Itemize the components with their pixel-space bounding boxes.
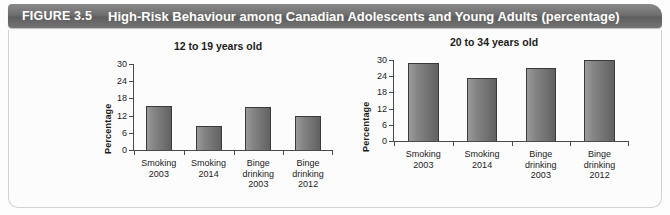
y-tick: 18 [104,93,134,103]
x-tick-label: Binge drinking 2003 [512,141,571,181]
y-tick: 30 [104,59,134,69]
chart-12-to-19: 12 to 19 years old Percentage 0 6 12 18 … [93,36,343,204]
bar-slot [134,64,184,150]
bar-slot [283,64,333,150]
x-tick-line: Binge [283,158,333,169]
bar-binge-drinking-2003 [245,107,271,150]
y-tick: 0 [364,136,394,146]
x-tick-line: drinking [512,160,571,171]
x-tick-line: Smoking [394,149,453,160]
x-tick-line: Smoking [184,158,234,169]
chart-20-to-34: 20 to 34 years old Percentage 0 6 12 18 … [349,36,639,204]
x-tick-line: drinking [570,160,629,171]
x-tick-line: 2003 [134,169,184,180]
y-tick: 24 [364,71,394,81]
y-tick: 0 [104,145,134,155]
x-tick-label: Binge drinking 2012 [283,150,333,190]
bar-smoking-2003 [146,106,172,150]
y-tick: 18 [364,87,394,97]
x-tick-line: 2012 [570,170,629,181]
chart-title-right: 20 to 34 years old [349,36,639,48]
figure-header-banner: FIGURE 3.5 High-Risk Behaviour among Can… [8,4,662,28]
bar-group-left [134,64,333,150]
x-tick-line: Binge [234,158,284,169]
x-tick-line: Binge [512,149,571,160]
figure-container: FIGURE 3.5 High-Risk Behaviour among Can… [0,0,670,215]
plot-area-left: 0 6 12 18 24 30 [133,64,333,151]
x-tick-label: Smoking 2003 [394,141,453,181]
y-tick: 12 [104,111,134,121]
plot-area-right: 0 6 12 18 24 30 [393,60,629,142]
x-tick-line: 2012 [283,179,333,190]
x-tick-label: Smoking 2014 [184,150,234,190]
bar-binge-drinking-2012 [295,116,321,150]
bar-slot [234,64,284,150]
x-tick-line: drinking [234,169,284,180]
figure-number-label: FIGURE 3.5 [8,9,92,23]
figure-body-panel: 12 to 19 years old Percentage 0 6 12 18 … [8,30,662,208]
bar-slot [453,60,512,141]
x-tick-line: 2003 [512,170,571,181]
bar-smoking-2003 [408,63,439,141]
bar-smoking-2014 [196,126,222,150]
x-axis-labels-right: Smoking 2003 Smoking 2014 Binge drinking… [394,141,629,181]
x-tick-label: Smoking 2014 [453,141,512,181]
x-tick-label: Smoking 2003 [134,150,184,190]
y-tick: 6 [364,120,394,130]
x-tick-line: Smoking [453,149,512,160]
y-tick: 30 [364,55,394,65]
bar-binge-drinking-2012 [584,60,615,141]
bar-group-right [394,60,629,141]
x-tick-line: Binge [570,149,629,160]
x-tick-label: Binge drinking 2012 [570,141,629,181]
y-tick: 24 [104,76,134,86]
y-tick: 6 [104,128,134,138]
x-tick-label: Binge drinking 2003 [234,150,284,190]
bar-slot [184,64,234,150]
bar-slot [394,60,453,141]
x-tick-line: 2003 [234,179,284,190]
x-tick-line: Smoking [134,158,184,169]
bar-slot [570,60,629,141]
x-axis-labels-left: Smoking 2003 Smoking 2014 Binge drinking… [134,150,333,190]
figure-title-label: High-Risk Behaviour among Canadian Adole… [92,9,619,24]
x-tick-line: 2003 [394,160,453,171]
bar-binge-drinking-2003 [526,68,557,141]
bar-slot [512,60,571,141]
x-tick-line: drinking [283,169,333,180]
bar-smoking-2014 [467,78,498,141]
chart-title-left: 12 to 19 years old [93,40,343,52]
x-tick-line: 2014 [184,169,234,180]
x-tick-line: 2014 [453,160,512,171]
y-tick: 12 [364,104,394,114]
